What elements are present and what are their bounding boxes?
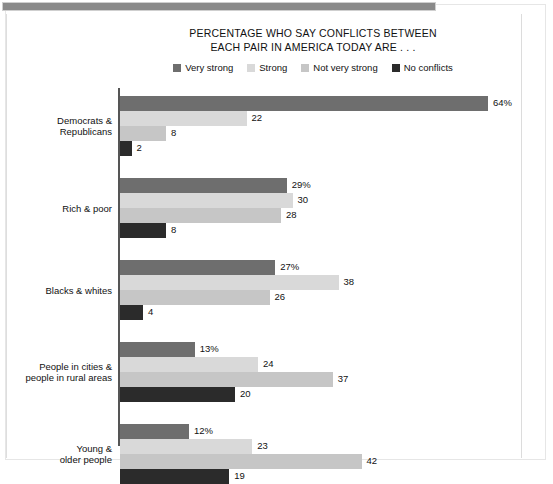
category-label-line: Blacks & whites (4, 285, 112, 296)
bar-value-label: 30 (298, 194, 309, 205)
bar[interactable] (120, 290, 270, 305)
legend-label: Very strong (185, 62, 233, 73)
bar[interactable] (120, 387, 235, 402)
legend-swatch-icon (247, 64, 255, 72)
chart-legend: Very strongStrongNot very strongNo confl… (113, 62, 513, 73)
bar[interactable] (120, 424, 189, 439)
bar[interactable] (120, 275, 339, 290)
bar-value-label: 13% (200, 343, 219, 354)
bar-value-label: 8 (171, 224, 176, 235)
bar[interactable] (120, 223, 166, 238)
bar-value-label: 23 (257, 440, 268, 451)
bar[interactable] (120, 141, 132, 156)
legend-label: Strong (259, 62, 287, 73)
legend-swatch-icon (173, 64, 181, 72)
bar-value-label: 42 (367, 455, 378, 466)
bar-value-label: 4 (148, 306, 153, 317)
bar[interactable] (120, 193, 293, 208)
bar[interactable] (120, 342, 195, 357)
bar[interactable] (120, 439, 252, 454)
legend-swatch-icon (392, 64, 400, 72)
category-label: Democrats &Republicans (4, 115, 112, 137)
category-label: Rich & poor (4, 203, 112, 214)
bar[interactable] (120, 372, 333, 387)
bar-value-label: 38 (344, 276, 355, 287)
bar-value-label: 26 (275, 291, 286, 302)
bar-value-label: 24 (263, 358, 274, 369)
bar-value-label: 64% (493, 97, 512, 108)
bar[interactable] (120, 178, 287, 193)
chart-title: PERCENTAGE WHO SAY CONFLICTS BETWEEN EAC… (113, 26, 513, 54)
bar-group: People in cities &people in rural areas1… (0, 342, 553, 402)
category-label-line: Rich & poor (4, 203, 112, 214)
bar-value-label: 27% (280, 261, 299, 272)
bar-value-label: 8 (171, 127, 176, 138)
legend-item: Not very strong (301, 62, 377, 73)
category-label: Blacks & whites (4, 285, 112, 296)
bar[interactable] (120, 260, 275, 275)
legend-label: Not very strong (313, 62, 377, 73)
bar-value-label: 12% (194, 425, 213, 436)
bar[interactable] (120, 111, 247, 126)
legend-label: No conflicts (404, 62, 453, 73)
bar[interactable] (120, 208, 281, 223)
bar[interactable] (120, 469, 229, 484)
bar-value-label: 37 (338, 373, 349, 384)
category-label-line: Republicans (4, 126, 112, 137)
bar[interactable] (120, 126, 166, 141)
category-label-line: People in cities & (4, 361, 112, 372)
category-label: Young &older people (4, 443, 112, 465)
bar[interactable] (120, 357, 258, 372)
bar-group: Rich & poor29%30288 (0, 178, 553, 238)
bar[interactable] (120, 96, 488, 111)
bar[interactable] (120, 305, 143, 320)
chart-title-line-2: EACH PAIR IN AMERICA TODAY ARE . . . (113, 40, 513, 54)
category-label-line: people in rural areas (4, 372, 112, 383)
bar-group: Young &older people12%234219 (0, 424, 553, 484)
legend-item: Very strong (173, 62, 233, 73)
bar-value-label: 29% (292, 179, 311, 190)
category-label-line: older people (4, 454, 112, 465)
bar-value-label: 2 (137, 142, 142, 153)
legend-item: No conflicts (392, 62, 453, 73)
bar-value-label: 19 (234, 470, 245, 481)
bar-group: Democrats &Republicans64%2282 (0, 96, 553, 156)
category-label: People in cities &people in rural areas (4, 361, 112, 383)
category-label-line: Young & (4, 443, 112, 454)
bar[interactable] (120, 454, 362, 469)
category-label-line: Democrats & (4, 115, 112, 126)
plot-area: Democrats &Republicans64%2282Rich & poor… (0, 88, 553, 448)
chart-title-line-1: PERCENTAGE WHO SAY CONFLICTS BETWEEN (113, 26, 513, 40)
bar-value-label: 22 (252, 112, 263, 123)
legend-item: Strong (247, 62, 287, 73)
legend-swatch-icon (301, 64, 309, 72)
bar-value-label: 20 (240, 388, 251, 399)
bar-group: Blacks & whites27%38264 (0, 260, 553, 320)
bar-value-label: 28 (286, 209, 297, 220)
